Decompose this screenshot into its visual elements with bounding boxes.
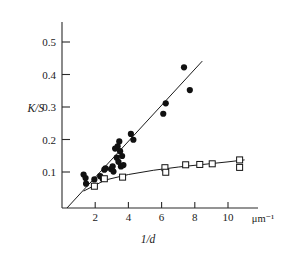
x-tick-label-2: 6 bbox=[159, 211, 165, 223]
data-point bbox=[91, 183, 97, 189]
data-point bbox=[120, 162, 126, 168]
data-point bbox=[183, 162, 189, 168]
x-axis-ticks bbox=[95, 202, 228, 208]
y-axis-title: K/S bbox=[26, 102, 44, 114]
series-filled-circles bbox=[67, 61, 202, 208]
scatter-plot: 0.5 0.4 0.3 0.2 0.1 2 4 6 8 10 K/S 1/d μ… bbox=[0, 0, 293, 257]
data-point bbox=[91, 176, 97, 182]
x-tick-label-4: 10 bbox=[223, 211, 235, 223]
data-point bbox=[128, 131, 134, 137]
y-axis-tick-labels: 0.5 0.4 0.3 0.2 0.1 bbox=[42, 36, 56, 178]
data-point bbox=[102, 165, 108, 171]
data-point bbox=[197, 161, 203, 167]
series-open-squares bbox=[84, 157, 245, 191]
y-tick-label-4: 0.1 bbox=[42, 166, 56, 178]
x-tick-label-1: 4 bbox=[126, 211, 132, 223]
data-point bbox=[181, 64, 187, 70]
data-point bbox=[83, 181, 89, 187]
data-series-layer bbox=[67, 61, 245, 208]
data-point bbox=[209, 161, 215, 167]
x-tick-label-0: 2 bbox=[92, 211, 98, 223]
y-axis-ticks bbox=[62, 42, 70, 172]
data-point bbox=[101, 176, 107, 182]
data-point bbox=[237, 164, 243, 170]
data-point bbox=[116, 138, 122, 144]
data-point bbox=[110, 169, 116, 175]
y-tick-label-0: 0.5 bbox=[42, 36, 56, 48]
x-axis-unit-label: μm⁻¹ bbox=[252, 213, 275, 224]
y-tick-label-2: 0.3 bbox=[42, 101, 56, 113]
data-point bbox=[163, 100, 169, 106]
data-point bbox=[110, 163, 116, 169]
y-tick-label-3: 0.2 bbox=[42, 134, 56, 146]
data-point bbox=[187, 87, 193, 93]
data-point bbox=[130, 137, 136, 143]
data-point bbox=[237, 157, 243, 163]
data-point bbox=[160, 111, 166, 117]
y-tick-label-1: 0.4 bbox=[42, 69, 56, 81]
x-tick-label-3: 8 bbox=[192, 211, 198, 223]
x-axis-tick-labels: 2 4 6 8 10 bbox=[92, 211, 234, 223]
data-point bbox=[82, 175, 88, 181]
data-point bbox=[120, 174, 126, 180]
x-axis-title: 1/d bbox=[141, 233, 156, 245]
data-point bbox=[119, 153, 125, 159]
figure-container: 0.5 0.4 0.3 0.2 0.1 2 4 6 8 10 K/S 1/d μ… bbox=[0, 0, 293, 257]
data-point bbox=[163, 169, 169, 175]
